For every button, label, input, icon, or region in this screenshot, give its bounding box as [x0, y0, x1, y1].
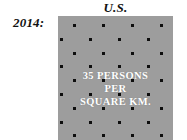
density-caption: 35 PERSONS PER SQUARE KM.: [58, 69, 173, 108]
density-dot: [131, 24, 134, 27]
density-dot: [147, 65, 150, 68]
density-dot: [60, 65, 63, 68]
density-dot: [160, 134, 163, 137]
density-dot: [89, 65, 92, 68]
density-dot: [147, 121, 150, 124]
density-dot: [89, 38, 92, 41]
density-caption-line-1: 35 PERSONS: [58, 69, 173, 82]
density-dot: [118, 38, 121, 41]
density-dot: [160, 52, 163, 55]
density-dot: [60, 121, 63, 124]
density-dot: [60, 38, 63, 41]
country-title: U.S.: [58, 1, 173, 15]
density-dot: [131, 134, 134, 137]
density-dot: [102, 134, 105, 137]
density-caption-line-2: PER: [58, 82, 173, 95]
density-dot: [73, 134, 76, 137]
density-dot: [147, 38, 150, 41]
density-dot: [118, 65, 121, 68]
density-dot: [102, 24, 105, 27]
density-dot: [131, 52, 134, 55]
year-label: 2014:: [13, 16, 44, 30]
density-caption-line-3: SQUARE KM.: [58, 95, 173, 108]
density-dot: [89, 121, 92, 124]
density-dot: [160, 24, 163, 27]
population-density-figure: U.S. 2014: 35 PERSONS PER SQUARE KM.: [0, 0, 187, 140]
density-dot: [118, 121, 121, 124]
density-panel: 35 PERSONS PER SQUARE KM.: [58, 16, 173, 140]
density-dot: [102, 52, 105, 55]
density-dot: [73, 24, 76, 27]
density-dot: [73, 52, 76, 55]
